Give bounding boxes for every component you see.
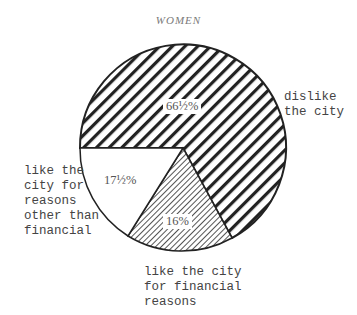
label-other: like the city for reasons other than fin… xyxy=(24,164,99,239)
pct-dislike: 66½% xyxy=(163,99,201,114)
label-dislike: dislike the city xyxy=(284,90,344,120)
label-financial: like the city for financial reasons xyxy=(144,265,242,310)
pct-financial: 16% xyxy=(163,214,192,229)
pct-other: 17½% xyxy=(101,173,139,188)
